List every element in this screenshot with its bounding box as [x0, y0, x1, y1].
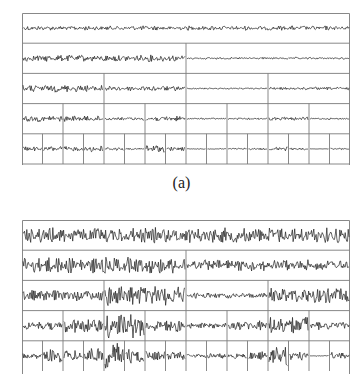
node-waveform-L4-N10	[228, 148, 247, 149]
node-waveform-L3-N0	[23, 116, 62, 121]
node-waveform-L2-N1	[105, 286, 185, 305]
node-waveform-L3-N4	[187, 118, 226, 119]
node-waveform-L4-N8	[187, 354, 206, 358]
panel-a-waveform-grid	[22, 13, 350, 165]
node-waveform-L2-N1	[105, 86, 185, 91]
node-waveform-L4-N11	[249, 148, 268, 150]
node-waveform-L4-N0	[23, 147, 42, 151]
node-waveform-L3-N7	[310, 118, 349, 120]
node-waveform-L4-N9	[208, 148, 227, 149]
node-waveform-L4-N0	[23, 354, 42, 359]
node-waveform-L1-N1	[187, 260, 349, 271]
node-waveform-L4-N12	[269, 347, 288, 365]
node-waveform-L3-N6	[269, 317, 308, 333]
node-waveform-L2-N2	[187, 88, 267, 89]
node-waveform-L4-N2	[64, 351, 83, 361]
node-waveform-L4-N7	[167, 352, 186, 360]
node-waveform-L4-N10	[228, 354, 247, 359]
node-waveform-L1-N0	[23, 55, 185, 62]
node-waveform-L2-N3	[269, 288, 349, 303]
node-waveform-L3-N1	[64, 116, 103, 122]
node-waveform-L3-N3	[146, 116, 185, 121]
node-waveform-L3-N1	[64, 320, 103, 333]
node-waveform-L4-N6	[146, 146, 165, 153]
node-waveform-L4-N4	[105, 343, 124, 368]
node-waveform-L4-N6	[146, 351, 165, 360]
panel-a-caption: (a)	[0, 174, 363, 192]
node-waveform-L4-N15	[331, 352, 350, 358]
node-waveform-L1-N1	[187, 57, 349, 59]
node-waveform-L4-N5	[126, 148, 145, 150]
node-waveform-L1-N0	[23, 257, 185, 273]
node-waveform-L3-N2	[105, 315, 144, 339]
node-waveform-L4-N14	[310, 356, 329, 357]
node-waveform-L4-N15	[331, 148, 350, 149]
node-waveform-L4-N4	[105, 148, 124, 151]
node-waveform-L3-N2	[105, 117, 144, 120]
node-waveform-L3-N5	[228, 118, 267, 120]
node-waveform-L0-N0	[23, 26, 349, 31]
node-waveform-L2-N0	[23, 85, 103, 92]
node-waveform-L2-N2	[187, 293, 267, 298]
node-waveform-L4-N1	[44, 350, 63, 363]
panel-b-waveform-grid	[22, 220, 350, 374]
node-waveform-L3-N5	[228, 321, 267, 330]
node-waveform-L4-N13	[290, 148, 309, 150]
node-waveform-L4-N5	[126, 349, 145, 363]
panel-a-decomposition-tree	[22, 13, 350, 164]
node-waveform-L2-N0	[23, 290, 103, 301]
node-waveform-L4-N7	[167, 147, 186, 151]
node-waveform-L3-N0	[23, 322, 62, 330]
node-waveform-L3-N3	[146, 321, 185, 332]
node-waveform-L4-N8	[187, 149, 206, 150]
node-waveform-L4-N3	[85, 146, 104, 152]
node-waveform-L4-N9	[208, 354, 227, 359]
node-waveform-L3-N7	[310, 322, 349, 330]
node-waveform-L2-N3	[269, 87, 349, 90]
node-waveform-L3-N6	[269, 117, 308, 120]
node-waveform-L4-N1	[44, 147, 63, 151]
node-waveform-L0-N0	[23, 227, 349, 243]
node-waveform-L4-N3	[85, 349, 104, 361]
node-waveform-L4-N13	[290, 352, 309, 360]
node-waveform-L4-N11	[249, 352, 268, 360]
node-waveform-L4-N12	[269, 147, 288, 151]
node-waveform-L3-N4	[187, 323, 226, 328]
node-waveform-L4-N2	[64, 147, 83, 151]
panel-b-decomposition-tree	[22, 220, 350, 373]
